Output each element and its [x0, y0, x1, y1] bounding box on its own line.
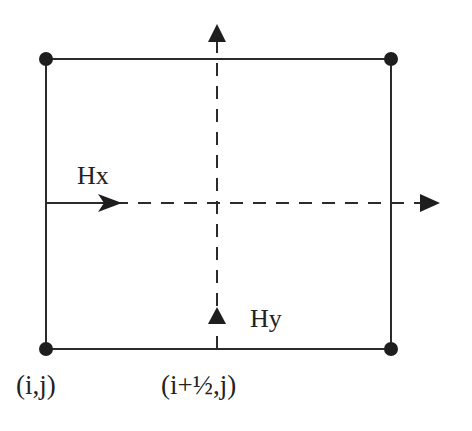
- yee-cell-diagram: Hx Hy (i,j) (i+½,j): [0, 0, 472, 431]
- node-bottom-right: [384, 342, 398, 356]
- horizontal-axis-arrowhead-icon: [420, 194, 440, 212]
- node-bottom-left: [39, 342, 53, 356]
- node-top-left: [39, 52, 53, 66]
- vertical-axis-arrowhead-icon: [208, 24, 226, 42]
- hy-label: Hy: [250, 306, 282, 332]
- hx-label: Hx: [77, 163, 109, 189]
- node-ij-label: (i,j): [16, 372, 56, 399]
- node-top-right: [384, 52, 398, 66]
- diagram-canvas: [0, 0, 472, 431]
- node-half-label: (i+½,j): [161, 372, 236, 399]
- hy-arrow-icon: [208, 307, 226, 324]
